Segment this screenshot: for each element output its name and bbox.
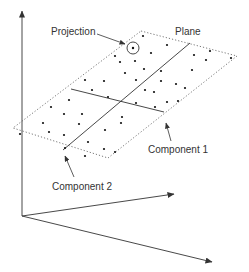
axis-2-arrow xyxy=(22,194,174,216)
component-1-line xyxy=(63,43,190,150)
component-2-line xyxy=(71,89,164,112)
component-2-label: Component 2 xyxy=(52,181,112,192)
component-1-pointer-arrow xyxy=(166,123,171,141)
component-1-label: Component 1 xyxy=(148,144,208,155)
pca-projection-diagram: Projection Plane Component 1 Component 2 xyxy=(0,0,249,272)
projection-marker xyxy=(127,42,139,54)
component-2-pointer-arrow xyxy=(65,156,74,177)
plane-outline xyxy=(13,31,237,158)
projection-pointer-arrow xyxy=(97,34,125,44)
data-points xyxy=(19,35,232,157)
plane-label: Plane xyxy=(175,26,201,37)
axis-3-arrow xyxy=(22,216,212,262)
projection-label: Projection xyxy=(51,26,95,37)
